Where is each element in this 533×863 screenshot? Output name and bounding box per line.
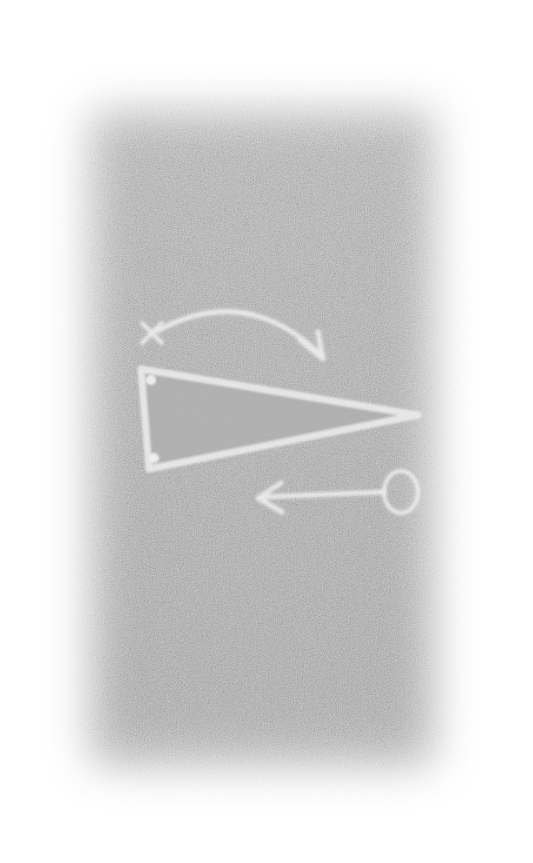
diagram-svg bbox=[0, 0, 533, 863]
panel-grain-overlay bbox=[40, 60, 500, 820]
play-diagram-canvas: Play Diagram Chalk-style play diagram on… bbox=[0, 0, 533, 863]
